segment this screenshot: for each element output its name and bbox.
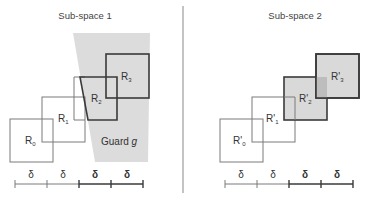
label-r1-prime: R'1 [266, 113, 279, 125]
svg-text:δ: δ [92, 169, 98, 180]
label-r0-prime: R'0 [233, 135, 246, 147]
svg-text:δ: δ [238, 169, 244, 180]
svg-text:δ: δ [60, 169, 66, 180]
svg-text:δ: δ [302, 169, 308, 180]
svg-text:δ: δ [270, 169, 276, 180]
label-r1: R1 [58, 113, 69, 125]
label-r0: R0 [25, 135, 36, 147]
svg-text:δ: δ [334, 169, 340, 180]
svg-text:δ: δ [124, 169, 130, 180]
subspace-1: R0 R1 R2 R3 Guard g δ δ δ δ [10, 33, 150, 188]
guard-label: Guard g [101, 136, 138, 147]
overlap-r2-r3 [316, 77, 327, 98]
scale-bar-1: δ δ δ δ [15, 169, 143, 188]
diagram-canvas: R0 R1 R2 R3 Guard g δ δ δ δ R'0 [0, 0, 366, 197]
scale-bar-2: δ δ δ δ [225, 169, 353, 188]
subspace-2: R'0 R'1 R'2 R'3 δ δ δ δ [220, 54, 359, 188]
svg-text:δ: δ [28, 169, 34, 180]
